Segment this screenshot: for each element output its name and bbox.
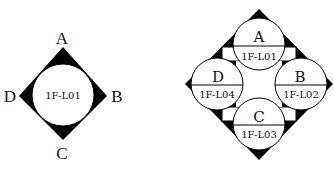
cell-d-letter: D	[212, 68, 224, 86]
cell-c-letter: C	[253, 108, 264, 126]
left-corner-d: D	[4, 87, 16, 106]
left-corner-a: A	[56, 29, 69, 48]
cell-b: B 1F-L02	[275, 58, 327, 110]
left-diagram: 1F-L01 A B C D	[4, 29, 123, 163]
left-corner-c: C	[56, 144, 67, 163]
cell-d: D 1F-L04	[191, 58, 243, 110]
right-diagram: A 1F-L01 B 1F-L02 C 1F-L03 D 1F-L04	[185, 9, 333, 160]
left-corner-b: B	[111, 87, 122, 106]
cell-a-code: 1F-L01	[241, 51, 277, 62]
cell-a: A 1F-L01	[233, 18, 285, 70]
cell-a-letter: A	[253, 28, 265, 46]
cell-d-code: 1F-L04	[199, 89, 235, 100]
diagram-canvas: 1F-L01 A B C D A 1F-L01 B 1F-L02	[0, 0, 334, 175]
cell-c-code: 1F-L03	[241, 129, 277, 140]
cell-b-letter: B	[294, 68, 305, 86]
cell-c: C 1F-L03	[233, 98, 285, 150]
cell-b-code: 1F-L02	[283, 89, 319, 100]
left-center-label: 1F-L01	[45, 90, 81, 101]
